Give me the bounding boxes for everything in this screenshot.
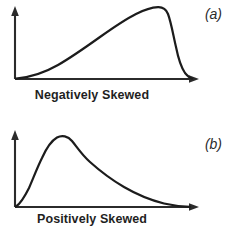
negatively-skewed-plot	[0, 0, 228, 92]
panel-negatively-skewed: Negatively Skewed (a)	[0, 0, 228, 112]
y-axis-arrowhead-icon	[11, 6, 19, 16]
caption-negatively-skewed: Negatively Skewed	[0, 88, 184, 102]
positively-skewed-curve	[16, 136, 190, 207]
panel-label-a: (a)	[205, 6, 222, 22]
caption-positively-skewed: Positively Skewed	[0, 212, 184, 226]
panel-positively-skewed: Positively Skewed (b)	[0, 124, 228, 236]
skewness-figure: Negatively Skewed (a) Positively Skewed …	[0, 0, 228, 236]
negatively-skewed-curve	[16, 7, 192, 78]
y-axis-arrowhead-icon	[11, 130, 19, 140]
positively-skewed-plot	[0, 124, 228, 216]
panel-label-b: (b)	[205, 136, 222, 152]
